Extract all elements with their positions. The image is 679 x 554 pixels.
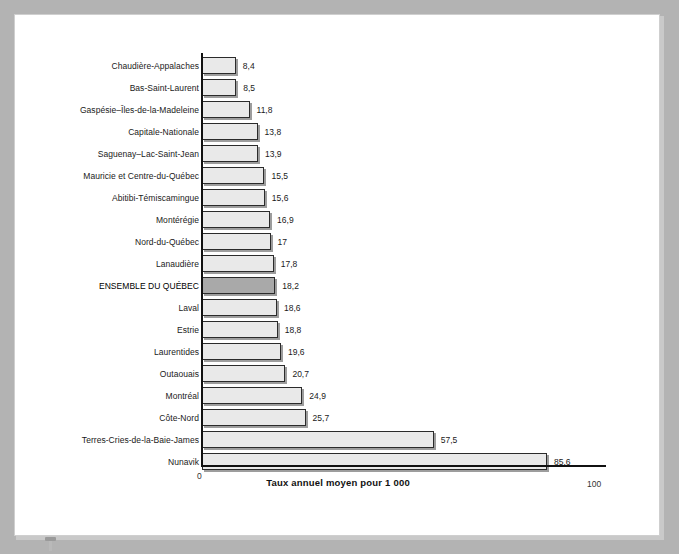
bar-wrapper: 8,5 — [202, 79, 296, 97]
bar-wrapper: 13,8 — [202, 123, 318, 141]
bar-category-label: Capitale-Nationale — [128, 121, 199, 143]
bar-category-label: Nord-du-Québec — [135, 231, 199, 253]
table-row: Terres-Cries-de-la-Baie-James57,5 — [15, 429, 660, 451]
bar-category-label: Montréal — [166, 385, 199, 407]
bar-wrapper: 15,6 — [202, 189, 325, 207]
page-bottom-handle-icon[interactable] — [45, 537, 56, 545]
bar-wrapper: 16,9 — [202, 211, 330, 229]
bar-value-label: 15,6 — [272, 189, 289, 207]
bar-category-label: Gaspésie–Îles-de-la-Madeleine — [80, 99, 199, 121]
bar-wrapper: 15,5 — [202, 167, 324, 185]
bar-value-label: 24,9 — [309, 387, 326, 405]
bar-wrapper: 18,6 — [202, 299, 337, 317]
bar[interactable] — [202, 387, 302, 404]
bar-wrapper: 20,7 — [202, 365, 345, 383]
bar-value-label: 57,5 — [441, 431, 458, 449]
table-row: Laval18,6 — [15, 297, 660, 319]
bar[interactable] — [202, 409, 306, 426]
bar-category-label: Mauricie et Centre-du-Québec — [83, 165, 199, 187]
table-row: Chaudière-Appalaches8,4 — [15, 55, 660, 77]
table-row: ENSEMBLE DU QUÉBEC18,2 — [15, 275, 660, 297]
bar-category-label: Abitibi-Témiscamingue — [112, 187, 199, 209]
table-row: Nord-du-Québec17 — [15, 231, 660, 253]
bar-value-label: 11,8 — [257, 101, 273, 119]
bar-category-label: Laval — [178, 297, 199, 319]
bar-value-label: 85,6 — [554, 453, 571, 471]
table-row: Nunavik85,6 — [15, 451, 660, 473]
bar-value-label: 13,9 — [265, 145, 282, 163]
bar[interactable] — [202, 321, 278, 338]
bar-wrapper: 8,4 — [202, 57, 296, 75]
bar[interactable] — [202, 189, 265, 206]
bar[interactable] — [202, 211, 270, 228]
x-axis-title: Taux annuel moyen pour 1 000 — [15, 477, 660, 488]
bar-value-label: 13,8 — [265, 123, 282, 141]
bar-wrapper: 85,6 — [202, 453, 607, 471]
bar-value-label: 19,6 — [288, 343, 305, 361]
bar-value-label: 16,9 — [277, 211, 294, 229]
bar-wrapper: 57,5 — [202, 431, 494, 449]
table-row: Gaspésie–Îles-de-la-Madeleine11,8 — [15, 99, 660, 121]
bar-wrapper: 25,7 — [202, 409, 366, 427]
bar-wrapper: 17 — [202, 233, 331, 251]
bar-wrapper: 24,9 — [202, 387, 362, 405]
bar-category-label: Chaudière-Appalaches — [112, 55, 199, 77]
x-axis-line — [201, 465, 606, 467]
bar-wrapper: 13,9 — [202, 145, 318, 163]
bar-category-label: Bas-Saint-Laurent — [130, 77, 199, 99]
bar-wrapper: 17,8 — [202, 255, 334, 273]
table-row: Mauricie et Centre-du-Québec15,5 — [15, 165, 660, 187]
bar-category-label: Saguenay–Lac-Saint-Jean — [98, 143, 199, 165]
bar[interactable] — [202, 123, 258, 140]
bar-value-label: 15,5 — [271, 167, 288, 185]
table-row: Outaouais20,7 — [15, 363, 660, 385]
bar[interactable] — [202, 255, 274, 272]
bar[interactable] — [202, 145, 258, 162]
table-row: Capitale-Nationale13,8 — [15, 121, 660, 143]
bar[interactable] — [202, 343, 281, 360]
bar-value-label: 18,6 — [284, 299, 301, 317]
bar-value-label: 25,7 — [313, 409, 330, 427]
table-row: Montérégie16,9 — [15, 209, 660, 231]
bar-highlighted[interactable] — [202, 277, 275, 294]
bar-value-label: 17 — [278, 233, 287, 251]
bar-value-label: 20,7 — [292, 365, 309, 383]
bar-category-label: Estrie — [177, 319, 199, 341]
bar-category-label: Nunavik — [168, 451, 199, 473]
bar-category-label: Laurentides — [154, 341, 199, 363]
bar-wrapper: 18,2 — [202, 277, 335, 295]
bar-value-label: 8,5 — [243, 79, 255, 97]
bar-category-label: Lanaudière — [156, 253, 199, 275]
bar-value-label: 18,2 — [282, 277, 299, 295]
bar-chart: Chaudière-Appalaches8,4Bas-Saint-Laurent… — [15, 15, 660, 536]
bar[interactable] — [202, 79, 236, 96]
bar-wrapper: 11,8 — [202, 101, 310, 119]
bar-category-label: Outaouais — [160, 363, 199, 385]
bar[interactable] — [202, 365, 285, 382]
table-row: Estrie18,8 — [15, 319, 660, 341]
screenshot-canvas: Chaudière-Appalaches8,4Bas-Saint-Laurent… — [0, 0, 679, 554]
bar-wrapper: 19,6 — [202, 343, 341, 361]
bar-value-label: 18,8 — [285, 321, 302, 339]
bar[interactable] — [202, 57, 236, 74]
table-row: Laurentides19,6 — [15, 341, 660, 363]
table-row: Abitibi-Témiscamingue15,6 — [15, 187, 660, 209]
bar-wrapper: 18,8 — [202, 321, 338, 339]
table-row: Côte-Nord25,7 — [15, 407, 660, 429]
table-row: Saguenay–Lac-Saint-Jean13,9 — [15, 143, 660, 165]
bar[interactable] — [202, 299, 277, 316]
bar[interactable] — [202, 233, 271, 250]
table-row: Bas-Saint-Laurent8,5 — [15, 77, 660, 99]
bar[interactable] — [202, 167, 264, 184]
bar-category-label: Montérégie — [156, 209, 199, 231]
handle-stem-icon — [49, 541, 52, 551]
bar-category-label: Terres-Cries-de-la-Baie-James — [82, 429, 199, 451]
bar[interactable] — [202, 101, 250, 118]
bar-value-label: 8,4 — [243, 57, 255, 75]
bar[interactable] — [202, 431, 434, 448]
bar-value-label: 17,8 — [281, 255, 298, 273]
bar-category-label: Côte-Nord — [159, 407, 199, 429]
bar[interactable] — [202, 453, 547, 470]
y-axis-line — [201, 53, 203, 465]
table-row: Montréal24,9 — [15, 385, 660, 407]
